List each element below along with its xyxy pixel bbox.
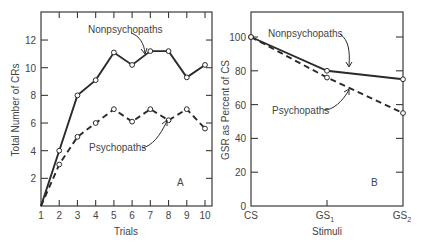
y-tick-label: 4 [30, 146, 36, 157]
panel-a-ylabel: Total Number of CRs [10, 64, 21, 157]
x-tick-label: 9 [184, 210, 190, 221]
panel-a-psych-label: Psychopaths [89, 142, 146, 153]
data-point [325, 68, 330, 73]
x-tick-label: 6 [129, 210, 135, 221]
data-point [325, 75, 330, 80]
panel-a-tag: A [177, 177, 184, 188]
data-point [75, 93, 80, 98]
gs1-main: GS [316, 210, 331, 221]
panel-b-xlabel: Stimuli [312, 226, 342, 237]
panel-b-ylabel: GSR as Percent of CS [220, 60, 231, 160]
panel-a-nonpsych-arrow [131, 33, 145, 53]
data-point [249, 35, 254, 40]
series-line [41, 109, 205, 206]
figure: 1234567891024681012 Nonpsychopaths Psych… [0, 0, 421, 246]
x-tick-label: 7 [148, 210, 154, 221]
x-tick-label: 10 [199, 210, 211, 221]
gs2-sub: 2 [407, 216, 411, 223]
data-point [75, 134, 80, 139]
data-point [93, 78, 98, 83]
data-point [203, 63, 208, 68]
panel-a-nonpsych-label: Nonpsychopaths [88, 24, 163, 35]
x-tick-label: 4 [93, 210, 99, 221]
data-point [57, 162, 62, 167]
panel-b-tag: B [371, 177, 378, 188]
panel-b-xtick-cs: CS [244, 210, 258, 221]
panel-a: 1234567891024681012 Nonpsychopaths Psych… [10, 12, 212, 237]
panel-b-xtick-gs2: GS2 [393, 210, 411, 223]
data-point [184, 75, 189, 80]
panel-a-xlabel: Trials [114, 226, 138, 237]
y-tick-label: 80 [235, 66, 247, 77]
x-tick-label: 1 [38, 210, 44, 221]
data-point [93, 121, 98, 126]
panel-b-psych-label: Psychopaths [272, 105, 329, 116]
x-tick-label: 8 [166, 210, 172, 221]
data-point [130, 63, 135, 68]
x-tick-label: 5 [111, 210, 117, 221]
y-tick-label: 40 [235, 133, 247, 144]
data-point [184, 107, 189, 112]
data-point [111, 107, 116, 112]
data-point [130, 119, 135, 124]
chart-canvas: 1234567891024681012 Nonpsychopaths Psych… [0, 0, 421, 246]
panel-b-xtick-gs1: GS1 [316, 210, 334, 223]
y-tick-label: 8 [30, 90, 36, 101]
y-tick-label: 10 [25, 63, 37, 74]
data-point [166, 49, 171, 54]
data-point [57, 148, 62, 153]
y-tick-label: 100 [229, 32, 246, 43]
panel-b-series [249, 35, 406, 116]
gs2-main: GS [393, 210, 408, 221]
data-point [148, 107, 153, 112]
gs1-sub: 1 [330, 216, 334, 223]
x-tick-label: 3 [75, 210, 81, 221]
y-tick-label: 60 [235, 100, 247, 111]
panel-a-ticks: 1234567891024681012 [25, 12, 212, 221]
x-tick-label: 2 [56, 210, 62, 221]
y-tick-label: 6 [30, 118, 36, 129]
data-point [148, 49, 153, 54]
panel-b: 020406080100 Nonpsychopaths Psychopaths … [220, 12, 411, 237]
y-tick-label: 12 [25, 35, 37, 46]
data-point [203, 126, 208, 131]
y-tick-label: 2 [30, 173, 36, 184]
panel-b-nonpsych-label: Nonpsychopaths [268, 28, 343, 39]
data-point [401, 77, 406, 82]
y-tick-label: 20 [235, 167, 247, 178]
data-point [111, 50, 116, 55]
data-point [401, 111, 406, 116]
